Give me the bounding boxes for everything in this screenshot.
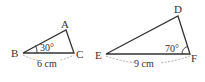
angle-f-arc [182, 47, 188, 55]
angle-f-label: 70° [165, 43, 179, 54]
vertex-e-label: E [95, 49, 102, 61]
angle-b-arc [36, 46, 38, 54]
vertex-d-label: D [174, 3, 182, 15]
vertex-c-label: C [76, 48, 83, 60]
vertex-a-label: A [61, 18, 69, 30]
vertex-b-label: B [11, 47, 18, 59]
side-ef-label: 9 cm [134, 58, 154, 69]
vertex-f-label: F [191, 52, 197, 64]
angle-b-label: 30° [40, 42, 54, 53]
side-bc-label: 6 cm [37, 58, 57, 69]
triangles-diagram: A B C 30° 6 cm D E F 70° 9 cm [0, 0, 205, 82]
